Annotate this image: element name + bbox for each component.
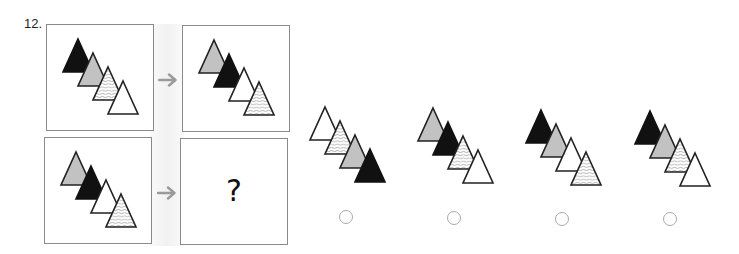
triangle-sequence (47, 25, 155, 132)
option-d-figure[interactable] (625, 99, 725, 199)
option-c-radio[interactable] (555, 212, 569, 226)
option-b-radio[interactable] (447, 211, 461, 225)
triangle-sequence (45, 138, 153, 245)
right-arrow-icon (157, 186, 177, 200)
panel-query-input (44, 137, 152, 244)
option-a-radio[interactable] (339, 210, 353, 224)
triangle-sequence (183, 26, 291, 133)
missing-answer-mark: ? (181, 173, 287, 208)
option-a-figure[interactable] (300, 95, 400, 195)
right-arrow-icon (158, 73, 178, 87)
option-d-radio[interactable] (663, 212, 677, 226)
option-c-figure[interactable] (516, 98, 616, 198)
panel-example-input (46, 24, 154, 131)
panel-query-output: ? (180, 138, 288, 245)
panel-example-output (182, 25, 290, 132)
option-b-figure[interactable] (408, 96, 508, 196)
background-shade (150, 24, 184, 246)
question-number: 12. (24, 16, 42, 31)
